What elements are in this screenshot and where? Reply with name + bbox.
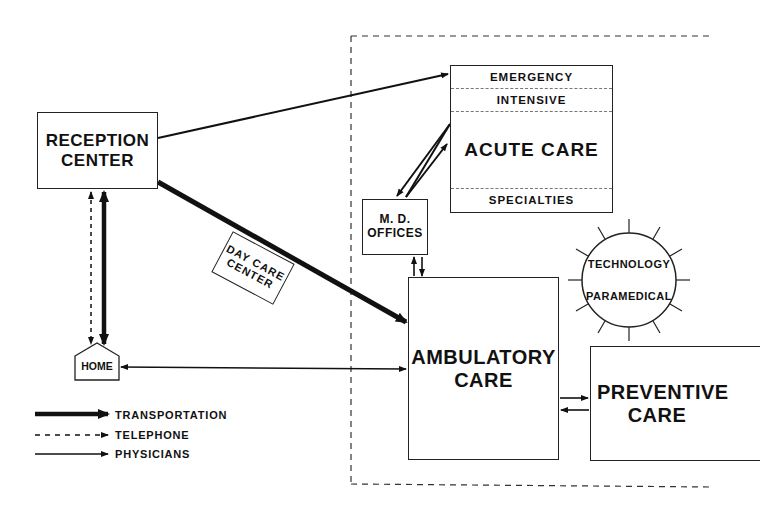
technology-sun-icon (568, 219, 690, 341)
paramedical-label: PARAMEDICAL (569, 290, 689, 302)
acute-section-intensive: INTENSIVE (451, 89, 612, 111)
md-offices-node: M. D. OFFICES (362, 199, 428, 255)
reception-center-node: RECEPTION CENTER (37, 112, 158, 189)
preventive-line1: PREVENTIVE (597, 381, 717, 404)
acute-care-node: EMERGENCY INTENSIVE ACUTE CARE SPECIALTI… (450, 65, 613, 213)
md-offices-line1: M. D. (379, 213, 410, 227)
acute-section-main: ACUTE CARE (451, 112, 612, 188)
edge-md-acute-b (406, 144, 447, 197)
acute-section-specialties: SPECIALTIES (451, 189, 612, 211)
preventive-care-node: PREVENTIVE CARE (590, 346, 760, 461)
legend-label: PHYSICIANS (115, 448, 190, 460)
edge-reception-emergency (158, 74, 448, 138)
technology-label: TECHNOLOGY (569, 258, 689, 270)
legend-label: TELEPHONE (115, 429, 189, 441)
ambulatory-line2: CARE (454, 369, 513, 392)
reception-center-line2: CENTER (61, 151, 134, 171)
edge-md-acute-a (397, 124, 450, 196)
ambulatory-care-node: AMBULATORY CARE (408, 277, 559, 460)
ambulatory-line1: AMBULATORY (411, 346, 556, 369)
legend-label: TRANSPORTATION (115, 409, 227, 421)
md-offices-line2: OFFICES (367, 227, 423, 241)
preventive-line2: CARE (597, 404, 717, 427)
home-label: HOME (74, 360, 120, 372)
acute-section-emergency: EMERGENCY (451, 66, 612, 88)
edge-md-acute-up (406, 124, 450, 197)
edge-home-ambulatory (121, 367, 406, 369)
reception-center-line1: RECEPTION (46, 131, 150, 151)
